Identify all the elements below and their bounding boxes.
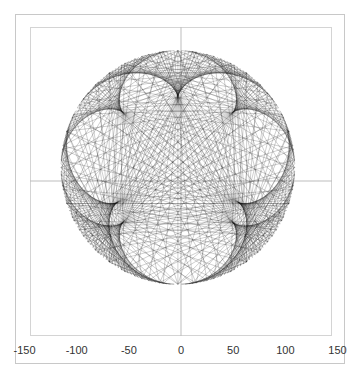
string-art-plot xyxy=(0,0,358,374)
chord-lines xyxy=(61,51,295,285)
x-tick-label: 100 xyxy=(276,344,294,356)
x-tick-label: -100 xyxy=(66,344,88,356)
x-tick-label: -50 xyxy=(121,344,137,356)
x-tick-label: 50 xyxy=(227,344,239,356)
x-tick-label: 150 xyxy=(328,344,346,356)
x-tick-label: -150 xyxy=(13,344,35,356)
x-tick-label: 0 xyxy=(178,344,184,356)
